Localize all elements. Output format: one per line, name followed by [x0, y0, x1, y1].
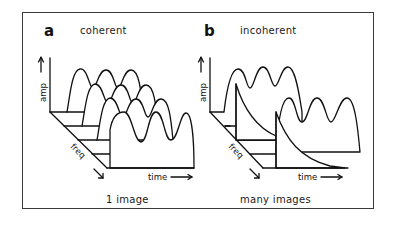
svg-text:time: time [298, 172, 317, 182]
svg-text:amp: amp [38, 83, 48, 102]
panel-a-plot: amp freq time [38, 57, 194, 182]
panel-b-plot: amp freq time [198, 57, 360, 182]
svg-text:freq: freq [227, 141, 246, 160]
svg-text:time: time [148, 172, 167, 182]
svg-text:freq: freq [69, 141, 88, 160]
diagram-svg: amp freq time amp [0, 0, 396, 225]
svg-text:amp: amp [198, 83, 208, 102]
